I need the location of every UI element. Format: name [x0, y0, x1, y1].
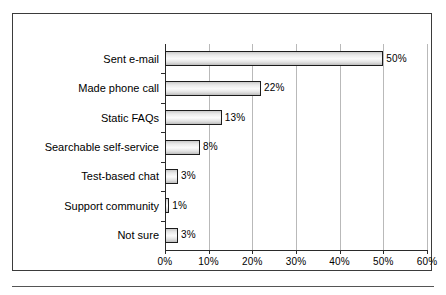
- y-tick-5: [161, 191, 165, 192]
- bar-value-label: 13%: [225, 112, 246, 123]
- y-tick-2: [161, 103, 165, 104]
- gridline-40: [340, 44, 341, 250]
- footer-divider: [12, 286, 434, 287]
- chart-page: 0%10%20%30%40%50%60% 50%22%13%8%3%1%3% S…: [0, 0, 446, 295]
- category-label: Static FAQs: [101, 112, 159, 124]
- bar-value-label: 50%: [386, 53, 407, 64]
- x-tick-label-50: 50%: [373, 256, 394, 267]
- x-tick-label-30: 30%: [286, 256, 307, 267]
- x-tick-60: [427, 250, 428, 254]
- x-tick-30: [296, 250, 297, 254]
- category-label: Made phone call: [78, 82, 159, 94]
- y-tick-6: [161, 221, 165, 222]
- bar-value-label: 8%: [203, 141, 218, 152]
- x-tick-10: [209, 250, 210, 254]
- x-tick-label-10: 10%: [198, 256, 219, 267]
- gridline-20: [252, 44, 253, 250]
- gridline-50: [383, 44, 384, 250]
- x-tick-label-20: 20%: [242, 256, 263, 267]
- x-tick-50: [383, 250, 384, 254]
- bar-value-label: 3%: [181, 170, 196, 181]
- bar: [165, 198, 169, 213]
- bar: [165, 81, 261, 96]
- gridline-60: [427, 44, 428, 250]
- x-tick-label-60: 60%: [417, 256, 438, 267]
- category-label: Sent e-mail: [103, 53, 159, 65]
- category-label: Searchable self-service: [45, 141, 159, 153]
- bar: [165, 140, 200, 155]
- bar: [165, 51, 383, 66]
- bar-value-label: 22%: [264, 82, 285, 93]
- x-tick-20: [252, 250, 253, 254]
- y-tick-1: [161, 73, 165, 74]
- bar-value-label: 1%: [172, 200, 187, 211]
- gridline-30: [296, 44, 297, 250]
- category-label: Test-based chat: [81, 170, 159, 182]
- y-tick-4: [161, 162, 165, 163]
- category-label: Not sure: [117, 229, 159, 241]
- bar: [165, 110, 222, 125]
- x-tick-label-0: 0%: [158, 256, 173, 267]
- bar: [165, 169, 178, 184]
- y-tick-3: [161, 132, 165, 133]
- x-tick-0: [165, 250, 166, 254]
- category-label: Support community: [64, 200, 159, 212]
- x-tick-label-40: 40%: [329, 256, 350, 267]
- chart-frame: 0%10%20%30%40%50%60% 50%22%13%8%3%1%3% S…: [12, 13, 432, 271]
- plot-area: 0%10%20%30%40%50%60% 50%22%13%8%3%1%3% S…: [165, 44, 427, 250]
- x-tick-40: [340, 250, 341, 254]
- bar-value-label: 3%: [181, 229, 196, 240]
- bar: [165, 228, 178, 243]
